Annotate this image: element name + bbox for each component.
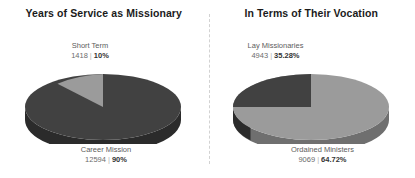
pie-svg-years-of-service <box>22 62 185 144</box>
pie-label-career-mission-percent: 90% <box>112 155 127 164</box>
chart-title-terms-of-vocation: In Terms of Their Vocation <box>208 7 415 19</box>
pie-label-short-term-count: 1418 <box>71 51 88 60</box>
pie-chart-terms-of-vocation <box>208 62 415 144</box>
chart-panel-years-of-service: Years of Service as Missionary Short Ter… <box>0 0 208 178</box>
pie-label-career-mission: Career Mission 12594|90% <box>52 145 160 165</box>
chart-title-years-of-service: Years of Service as Missionary <box>0 7 208 19</box>
pie-label-lay-missionaries-percent: 35.28% <box>274 51 299 60</box>
pie-label-career-mission-count: 12594 <box>85 155 106 164</box>
pie-label-short-term-name: Short Term <box>38 41 142 51</box>
pie-label-ordained-ministers: Ordained Ministers 9069|64.72% <box>267 145 379 165</box>
pie-label-lay-missionaries-name: Lay Missionaries <box>221 41 331 51</box>
pie-label-ordained-ministers-count: 9069 <box>298 155 315 164</box>
pie-svg-terms-of-vocation <box>230 62 393 144</box>
pie-label-career-mission-values: 12594|90% <box>52 155 160 165</box>
pie-label-ordained-ministers-percent: 64.72% <box>321 155 346 164</box>
pie-label-short-term: Short Term 1418|10% <box>38 41 142 61</box>
pie-label-lay-missionaries-count: 4943 <box>251 51 268 60</box>
pie-label-career-mission-name: Career Mission <box>52 145 160 155</box>
panel-divider <box>209 14 210 164</box>
pie-chart-figure: Years of Service as Missionary Short Ter… <box>0 0 415 178</box>
pie-chart-years-of-service <box>0 62 208 144</box>
pie-label-ordained-ministers-name: Ordained Ministers <box>267 145 379 155</box>
pie-label-short-term-values: 1418|10% <box>38 51 142 61</box>
pie-label-lay-missionaries-values: 4943|35.28% <box>221 51 331 61</box>
pie-label-short-term-percent: 10% <box>94 51 109 60</box>
pie-slice-lay-missionaries <box>233 74 311 107</box>
pie-label-ordained-ministers-values: 9069|64.72% <box>267 155 379 165</box>
pie-label-lay-missionaries: Lay Missionaries 4943|35.28% <box>221 41 331 61</box>
chart-panel-terms-of-vocation: In Terms of Their Vocation Lay Missionar… <box>208 0 415 178</box>
